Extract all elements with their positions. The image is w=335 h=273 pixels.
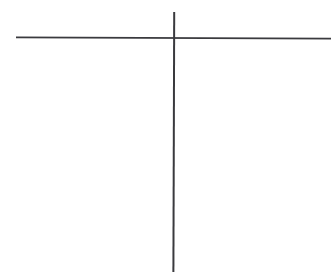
axis-drawing bbox=[0, 0, 335, 273]
vertical-axis-line bbox=[173, 12, 174, 272]
figure-canvas: Cross / Axis Line Drawing bbox=[0, 0, 335, 273]
canvas-background bbox=[0, 0, 335, 273]
